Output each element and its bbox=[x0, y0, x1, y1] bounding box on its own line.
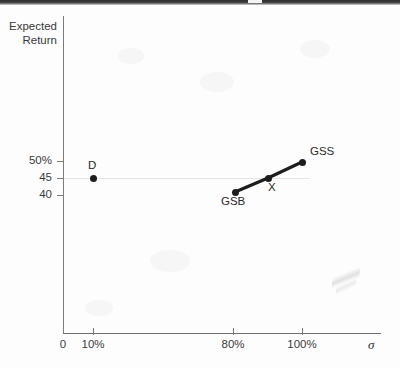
data-label-x: X bbox=[268, 181, 276, 193]
portfolio-line-series bbox=[63, 140, 383, 220]
data-label-gsb: GSB bbox=[221, 195, 245, 207]
scan-smudge-artifact bbox=[336, 272, 356, 298]
y-tick-label-40: 40 bbox=[18, 188, 52, 200]
x-axis-line bbox=[63, 333, 381, 334]
x-tick-mark bbox=[302, 328, 303, 335]
x-tick-label-100: 100% bbox=[282, 338, 322, 350]
data-point-gss[interactable] bbox=[299, 159, 306, 166]
data-label-d: D bbox=[88, 159, 96, 171]
paper-noise bbox=[150, 250, 190, 272]
x-axis-title-sigma: σ bbox=[368, 337, 374, 353]
paper-noise bbox=[118, 48, 144, 64]
scan-page-edge bbox=[0, 0, 400, 5]
y-tick-label-45: 45 bbox=[18, 171, 52, 183]
paper-noise bbox=[200, 72, 234, 92]
y-axis-title-line-1: Expected bbox=[2, 20, 57, 34]
paper-noise bbox=[300, 40, 330, 58]
x-tick-label-10: 10% bbox=[73, 338, 113, 350]
figure-canvas: Expected Return 50% 45 40 0 10% 80% 100%… bbox=[0, 0, 400, 369]
scan-page-edge-notch bbox=[248, 0, 262, 3]
paper-noise bbox=[85, 300, 113, 316]
x-tick-mark bbox=[233, 328, 234, 335]
data-label-gss: GSS bbox=[310, 145, 334, 157]
y-axis-title-line-2: Return bbox=[2, 34, 57, 48]
x-tick-mark bbox=[93, 328, 94, 335]
x-tick-label-80: 80% bbox=[213, 338, 253, 350]
y-axis-title: Expected Return bbox=[2, 20, 57, 47]
data-point-d[interactable] bbox=[90, 175, 97, 182]
y-tick-label-50: 50% bbox=[18, 154, 52, 166]
